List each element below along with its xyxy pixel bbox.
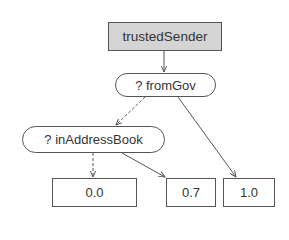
leaf-node-0-7: 0.7 — [166, 178, 216, 207]
decision-node-from-gov: ? fromGov — [115, 73, 216, 97]
leaf-node-value: 0.0 — [85, 185, 103, 200]
leaf-node-value: 0.7 — [182, 185, 200, 200]
leaf-node-0-0: 0.0 — [52, 178, 137, 207]
edge-fromgov-to-leaf-1-0 — [178, 97, 236, 177]
decision-node-label: ? fromGov — [135, 78, 196, 93]
decision-node-in-address-book: ? inAddressBook — [22, 126, 165, 153]
edge-inaddressbook-to-leaf-0-7 — [122, 153, 165, 177]
edge-fromgov-to-inaddressbook — [116, 97, 145, 125]
root-node-trusted-sender: trustedSender — [108, 22, 222, 51]
leaf-node-1-0: 1.0 — [223, 178, 275, 207]
decision-node-label: ? inAddressBook — [44, 132, 142, 147]
leaf-node-value: 1.0 — [240, 185, 258, 200]
root-node-label: trustedSender — [123, 29, 208, 44]
